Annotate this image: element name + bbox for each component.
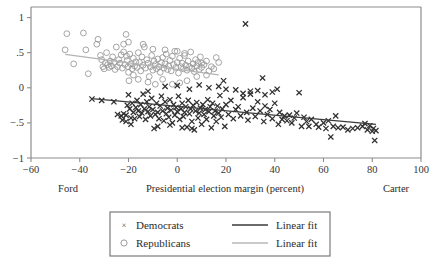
y-tick-label: 1	[19, 12, 24, 23]
y-tick-label: −.5	[10, 117, 24, 128]
y-tick-label: 0	[19, 82, 24, 93]
legend-label-democrats-fit: Linear fit	[276, 219, 317, 231]
x-tick-label: −40	[72, 164, 88, 175]
x-tick-label: 40	[270, 164, 281, 175]
legend-label-republicans: Republicans	[136, 237, 190, 249]
x-tick-label: 0	[175, 164, 180, 175]
x-axis-left-end-label: Ford	[58, 183, 79, 194]
legend-label-republicans-fit: Linear fit	[276, 237, 317, 249]
y-tick-label: .5	[16, 47, 24, 58]
x-axis-title: Presidential election margin (percent)	[146, 183, 305, 195]
legend-label-democrats: Democrats	[136, 219, 184, 231]
y-tick-label: −1	[13, 153, 24, 164]
legend: × Democrats Republicans Linear fit Linea…	[110, 212, 330, 256]
legend-marker-democrats-icon: ×	[122, 221, 127, 230]
x-tick-label: 20	[221, 164, 232, 175]
x-tick-label: 60	[318, 164, 329, 175]
chart-svg: 1.50−.5−1 −60−40−20020406080100 Presiden…	[0, 0, 439, 266]
x-axis-right-end-label: Carter	[383, 183, 410, 194]
x-tick-label: 80	[367, 164, 378, 175]
x-tick-label: −60	[23, 164, 39, 175]
scatter-plot-figure: 1.50−.5−1 −60−40−20020406080100 Presiden…	[0, 0, 439, 266]
x-tick-label: 100	[413, 164, 429, 175]
x-tick-label: −20	[120, 164, 136, 175]
